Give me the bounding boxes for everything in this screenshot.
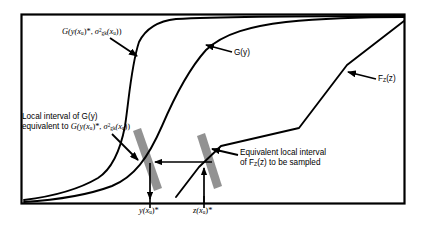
label-g-conditional: G(y(xu)*, σ2gk(xu)) [62,27,121,37]
label-z-axis-point: z(xu)* [193,206,212,216]
label-y-axis-point: y(xu)* [139,206,159,216]
figure-container: G(y(xu)*, σ2gk(xu)) G(y) FZ(z) Local int… [0,0,426,227]
label-gy: G(y) [234,48,250,58]
label-fz: FZ(z) [378,74,396,84]
label-equivalent-interval: Equivalent local interval of FZ(z) to be… [240,148,326,167]
label-local-interval: Local interval of G(y) equivalent to G(y… [22,112,130,132]
